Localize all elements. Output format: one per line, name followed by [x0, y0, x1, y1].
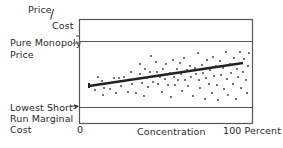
chart-frame: [79, 20, 253, 124]
label-tick-marks: [70, 36, 79, 106]
scatter-points: [94, 51, 250, 101]
trend-line: [89, 63, 243, 86]
chart-plot: [0, 0, 283, 148]
arrowhead-icon: [74, 104, 79, 109]
